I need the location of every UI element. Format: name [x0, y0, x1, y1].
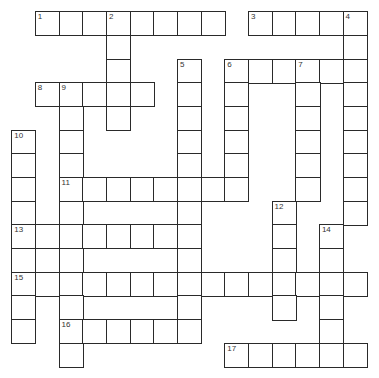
crossword-cell[interactable]: 9 — [59, 82, 84, 107]
crossword-cell[interactable] — [130, 11, 155, 36]
crossword-cell[interactable] — [177, 153, 202, 178]
crossword-cell[interactable] — [272, 59, 297, 84]
crossword-cell[interactable] — [224, 82, 249, 107]
crossword-cell[interactable] — [295, 82, 320, 107]
crossword-cell[interactable] — [177, 319, 202, 344]
crossword-cell[interactable] — [343, 343, 368, 368]
crossword-cell[interactable] — [319, 59, 344, 84]
crossword-cell[interactable] — [177, 106, 202, 131]
crossword-cell[interactable]: 17 — [224, 343, 249, 368]
crossword-cell[interactable] — [248, 272, 273, 297]
crossword-cell[interactable] — [177, 82, 202, 107]
crossword-cell[interactable]: 8 — [35, 82, 60, 107]
crossword-cell[interactable] — [177, 130, 202, 155]
crossword-cell[interactable] — [319, 343, 344, 368]
crossword-cell[interactable] — [106, 82, 131, 107]
crossword-cell[interactable] — [295, 343, 320, 368]
crossword-cell[interactable] — [153, 177, 178, 202]
crossword-cell[interactable] — [201, 177, 226, 202]
crossword-cell[interactable]: 6 — [224, 59, 249, 84]
crossword-cell[interactable] — [224, 153, 249, 178]
crossword-cell[interactable] — [59, 106, 84, 131]
crossword-cell[interactable] — [106, 272, 131, 297]
crossword-cell[interactable] — [153, 272, 178, 297]
crossword-cell[interactable] — [82, 11, 107, 36]
crossword-cell[interactable]: 10 — [11, 130, 36, 155]
crossword-cell[interactable] — [153, 11, 178, 36]
crossword-cell[interactable] — [11, 319, 36, 344]
crossword-cell[interactable]: 1 — [35, 11, 60, 36]
crossword-cell[interactable] — [272, 272, 297, 297]
crossword-cell[interactable]: 7 — [295, 59, 320, 84]
crossword-cell[interactable]: 12 — [272, 201, 297, 226]
crossword-cell[interactable] — [201, 11, 226, 36]
crossword-cell[interactable]: 16 — [59, 319, 84, 344]
crossword-cell[interactable] — [272, 11, 297, 36]
crossword-cell[interactable]: 2 — [106, 11, 131, 36]
crossword-cell[interactable] — [248, 59, 273, 84]
crossword-cell[interactable] — [59, 343, 84, 368]
crossword-cell[interactable] — [130, 319, 155, 344]
crossword-cell[interactable] — [11, 177, 36, 202]
crossword-cell[interactable] — [82, 319, 107, 344]
crossword-cell[interactable] — [106, 319, 131, 344]
crossword-cell[interactable] — [153, 224, 178, 249]
crossword-cell[interactable] — [59, 248, 84, 273]
crossword-cell[interactable] — [343, 82, 368, 107]
crossword-cell[interactable] — [319, 248, 344, 273]
crossword-cell[interactable]: 13 — [11, 224, 36, 249]
crossword-cell[interactable]: 15 — [11, 272, 36, 297]
crossword-cell[interactable] — [224, 130, 249, 155]
crossword-cell[interactable] — [295, 11, 320, 36]
crossword-cell[interactable] — [319, 319, 344, 344]
crossword-cell[interactable] — [11, 153, 36, 178]
crossword-cell[interactable]: 3 — [248, 11, 273, 36]
crossword-cell[interactable] — [35, 272, 60, 297]
crossword-cell[interactable] — [343, 130, 368, 155]
crossword-cell[interactable] — [295, 130, 320, 155]
crossword-cell[interactable] — [106, 35, 131, 60]
crossword-cell[interactable] — [82, 177, 107, 202]
crossword-cell[interactable] — [224, 272, 249, 297]
crossword-cell[interactable] — [153, 319, 178, 344]
crossword-cell[interactable]: 5 — [177, 59, 202, 84]
crossword-cell[interactable] — [59, 201, 84, 226]
crossword-cell[interactable] — [272, 224, 297, 249]
crossword-cell[interactable] — [59, 130, 84, 155]
crossword-cell[interactable] — [11, 295, 36, 320]
crossword-cell[interactable] — [59, 272, 84, 297]
crossword-cell[interactable] — [177, 201, 202, 226]
crossword-cell[interactable] — [224, 177, 249, 202]
crossword-cell[interactable] — [106, 177, 131, 202]
crossword-cell[interactable] — [343, 106, 368, 131]
crossword-cell[interactable] — [106, 59, 131, 84]
crossword-cell[interactable] — [106, 224, 131, 249]
crossword-cell[interactable] — [130, 224, 155, 249]
crossword-cell[interactable] — [319, 11, 344, 36]
crossword-cell[interactable] — [177, 177, 202, 202]
crossword-cell[interactable] — [224, 106, 249, 131]
crossword-cell[interactable]: 14 — [319, 224, 344, 249]
crossword-cell[interactable] — [35, 224, 60, 249]
crossword-cell[interactable] — [343, 153, 368, 178]
crossword-cell[interactable] — [343, 272, 368, 297]
crossword-cell[interactable] — [177, 11, 202, 36]
crossword-cell[interactable] — [59, 11, 84, 36]
crossword-cell[interactable] — [295, 153, 320, 178]
crossword-cell[interactable] — [177, 272, 202, 297]
crossword-cell[interactable] — [343, 59, 368, 84]
crossword-cell[interactable] — [130, 82, 155, 107]
crossword-cell[interactable] — [59, 153, 84, 178]
crossword-cell[interactable] — [272, 295, 297, 320]
crossword-cell[interactable] — [295, 106, 320, 131]
crossword-cell[interactable] — [106, 106, 131, 131]
crossword-cell[interactable] — [248, 343, 273, 368]
crossword-cell[interactable] — [177, 295, 202, 320]
crossword-cell[interactable] — [295, 177, 320, 202]
crossword-cell[interactable] — [130, 177, 155, 202]
crossword-cell[interactable] — [59, 295, 84, 320]
crossword-cell[interactable] — [343, 201, 368, 226]
crossword-cell[interactable] — [82, 224, 107, 249]
crossword-cell[interactable]: 11 — [59, 177, 84, 202]
crossword-cell[interactable] — [272, 248, 297, 273]
